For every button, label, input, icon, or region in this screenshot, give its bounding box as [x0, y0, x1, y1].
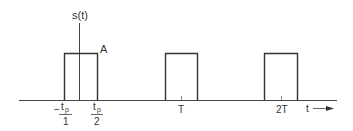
pulse-T — [166, 54, 198, 101]
x-axis-label: t — [306, 103, 309, 114]
pos-tick-numerator: t — [93, 101, 96, 112]
neg-tick-numerator: t — [61, 101, 64, 112]
two-period-label: 2T — [276, 104, 288, 115]
neg-sign: − — [54, 104, 60, 115]
diagram-svg: s(t) A − t p 1 t p 2 T 2T t — [0, 0, 353, 131]
amplitude-label: A — [100, 43, 108, 55]
neg-tick-denominator: 1 — [63, 116, 69, 127]
pulse-2T — [265, 54, 298, 101]
y-axis-label: s(t) — [72, 9, 88, 21]
period-label: T — [178, 104, 184, 115]
time-arrow-icon — [326, 106, 334, 111]
pulse-0 — [65, 54, 98, 101]
pulse-train-diagram: s(t) A − t p 1 t p 2 T 2T t — [0, 0, 353, 131]
neg-tick-subscript: p — [65, 106, 69, 114]
pos-tick-denominator: 2 — [94, 116, 100, 127]
pos-tick-subscript: p — [97, 106, 101, 114]
